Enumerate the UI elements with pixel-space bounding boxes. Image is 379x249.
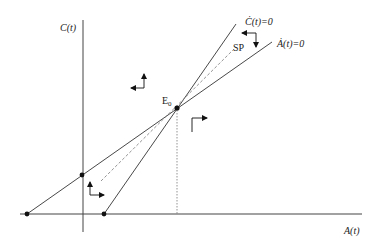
saddle-path-label: SP (233, 42, 245, 53)
a-dot-nullcline-label: Ȧ(t)=0 (276, 38, 304, 50)
arrow-pair-right (192, 118, 207, 132)
y-axis-label: C(t) (60, 22, 77, 34)
a-dot-nullcline (27, 42, 272, 214)
a-nullcline-x-intercept (25, 212, 30, 217)
a-nullcline-y-intercept (80, 173, 85, 178)
x-axis-label: A(t) (343, 225, 360, 237)
equilibrium-point (174, 105, 179, 110)
equilibrium-label: E0 (162, 95, 172, 108)
c-nullcline-x-intercept (102, 212, 107, 217)
c-dot-nullcline-label: Ċ(t)=0 (245, 16, 273, 28)
arrow-pair-upper-left (131, 74, 144, 88)
phase-diagram: C(t) A(t) E0 Ċ(t)=0 Ȧ(t)=0 SP (0, 0, 379, 249)
arrow-pair-lower-left (90, 182, 104, 195)
c-dot-nullcline (104, 24, 236, 214)
